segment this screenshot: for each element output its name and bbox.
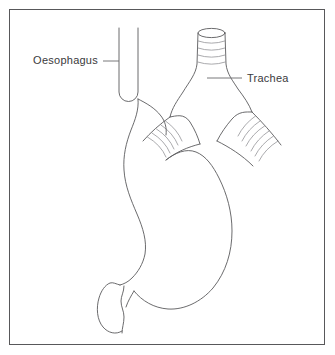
left-bronchus: [143, 117, 200, 160]
label-trachea: Trachea: [247, 72, 289, 84]
trachea-cartilage-rings: [198, 41, 226, 64]
right-bronchus: [217, 112, 281, 166]
oesophagus-tube: [119, 28, 138, 102]
anatomy-diagram: Oesophagus Trachea: [0, 0, 335, 355]
figure-root: Oesophagus Trachea: [0, 0, 335, 355]
duodenum: [97, 283, 134, 333]
trachea-tube: [170, 28, 252, 117]
right-bronchus-rings: [238, 116, 278, 161]
left-bronchus-rings: [148, 121, 183, 157]
stomach-body: [97, 99, 232, 333]
label-oesophagus: Oesophagus: [33, 54, 98, 66]
